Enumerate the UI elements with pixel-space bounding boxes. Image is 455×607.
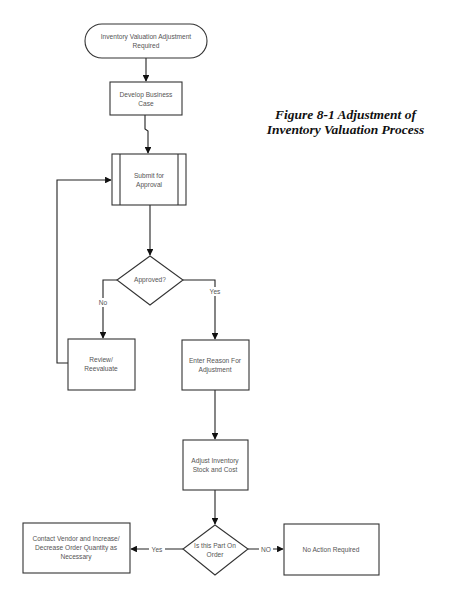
node-enter-reason[interactable]: Enter Reason For Adjustment	[182, 340, 249, 390]
edge-labels: No Yes Yes NO	[97, 287, 273, 554]
figure-caption: Figure 8-1 Adjustment of Inventory Valua…	[238, 107, 453, 137]
node-start-line2: Required	[133, 42, 160, 50]
node-contact-line2: Decrease Order Quantity as	[35, 544, 118, 552]
node-review-reevaluate[interactable]: Review/ Reevaluate	[68, 339, 135, 390]
node-submit-for-approval[interactable]: Submit for Approval	[112, 154, 186, 205]
node-review-line2: Reevaluate	[84, 365, 118, 372]
node-on-order-line1: Is this Part On	[194, 542, 236, 549]
node-develop-business-case[interactable]: Develop Business Case	[110, 82, 182, 115]
node-review-line1: Review/	[89, 356, 113, 363]
label-approved-no: No	[99, 299, 108, 306]
node-approved-decision[interactable]: Approved?	[117, 256, 183, 305]
node-contact-line1: Contact Vendor and Increase/	[32, 535, 119, 542]
label-on-order-no: NO	[261, 546, 271, 553]
node-enter-line2: Adjustment	[199, 366, 232, 374]
node-adjust-line1: Adjust Inventory	[191, 457, 239, 465]
node-no-action-required[interactable]: No Action Required	[284, 524, 379, 575]
node-adjust-inventory[interactable]: Adjust Inventory Stock and Cost	[183, 440, 248, 490]
node-contact-vendor[interactable]: Contact Vendor and Increase/ Decrease Or…	[23, 523, 130, 573]
figure-caption-line2: Inventory Valuation Process	[238, 122, 453, 137]
node-contact-line3: Necessary	[60, 553, 92, 561]
node-adjust-line2: Stock and Cost	[193, 466, 238, 473]
node-on-order-line2: Order	[207, 551, 225, 558]
flowchart-canvas: No Yes Yes NO Inventory Valuation Adjust…	[0, 0, 455, 607]
node-start-line1: Inventory Valuation Adjustment	[101, 33, 192, 41]
node-submit-line1: Submit for	[134, 172, 165, 179]
edge-approved-no	[103, 280, 117, 338]
node-no-action-line1: No Action Required	[303, 546, 360, 554]
node-approved-line1: Approved?	[134, 276, 166, 284]
figure-caption-line1: Figure 8-1 Adjustment of	[238, 107, 453, 122]
label-approved-yes: Yes	[210, 288, 221, 295]
node-start-terminator[interactable]: Inventory Valuation Adjustment Required	[85, 24, 207, 58]
node-develop-line2: Case	[138, 100, 154, 107]
node-on-order-decision[interactable]: Is this Part On Order	[183, 525, 248, 575]
label-on-order-yes: Yes	[152, 546, 163, 553]
node-submit-line2: Approval	[136, 181, 163, 189]
edge-develop-to-submit	[145, 115, 148, 153]
node-enter-line1: Enter Reason For	[189, 357, 242, 364]
node-develop-line1: Develop Business	[120, 91, 173, 99]
